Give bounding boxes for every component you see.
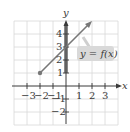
y-tick-label: −2 [51, 106, 66, 117]
x-axis-label: x [122, 80, 128, 91]
y-axis-label: y [62, 7, 69, 18]
y-tick-label: 1 [57, 67, 63, 78]
y-tick-label: −1 [51, 93, 66, 104]
function-graph: y = f(x) x y −3 −2 −1 1 2 3 4 3 2 1 −1 −… [0, 0, 130, 132]
y-tick-label: 2 [56, 54, 62, 65]
function-label: y = f(x) [79, 48, 118, 59]
x-tick-label: 1 [76, 90, 82, 101]
y-tick-label: 4 [56, 28, 62, 39]
y-tick-label: 3 [56, 41, 62, 52]
closed-endpoint-dot [38, 71, 42, 75]
x-tick-label: 3 [102, 90, 108, 101]
x-tick-label: 2 [89, 90, 95, 101]
